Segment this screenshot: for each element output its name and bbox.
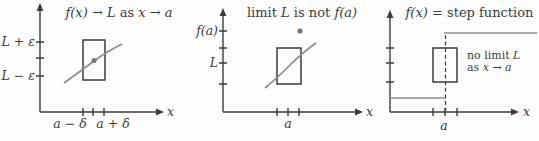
limits-figure: f(x) → L as x → a L + ε L − ε a − δ a + … xyxy=(0,0,539,141)
p1-xtick-label-a-plus-delta: a + δ xyxy=(81,117,145,131)
p1-ytick-label-L-minus-eps: L − ε xyxy=(0,69,35,83)
p3-title-seg1: f(x) xyxy=(406,5,428,20)
p1-x-axis-arrow-icon xyxy=(156,109,164,116)
p3-title-seg2: = step function xyxy=(428,5,534,20)
p3-note2-seg1: as xyxy=(467,61,483,74)
p2-xtick-label-a: a xyxy=(272,117,304,131)
p2-y-axis-arrow-icon xyxy=(220,8,227,16)
p1-title-seg1: f(x) → L xyxy=(65,5,115,20)
p2-title: limit L is not f(a) xyxy=(232,6,372,20)
p3-x-axis-label: x xyxy=(523,105,530,119)
p2-ytick-label-fa: f(a) xyxy=(180,24,218,38)
p3-no-limit-note-line2: as x → a xyxy=(467,62,512,74)
p2-x-axis-label: x xyxy=(366,105,373,119)
p2-fa-value-dot xyxy=(297,28,302,33)
p3-xtick-label-a: a xyxy=(428,119,460,133)
p1-title-seg2: as xyxy=(116,5,139,20)
p1-title: f(x) → L as x → a xyxy=(40,6,198,20)
p2-function-curve xyxy=(265,43,316,88)
panel-step-function xyxy=(386,10,537,116)
p2-title-seg3: is not xyxy=(290,5,335,20)
p2-title-seg1: limit xyxy=(247,5,281,20)
p2-ytick-label-L: L xyxy=(180,56,218,70)
p1-title-seg3: x → a xyxy=(138,5,172,20)
p2-title-seg4: f(a) xyxy=(334,5,357,20)
p1-function-curve xyxy=(64,44,122,83)
p2-title-seg2: L xyxy=(281,5,290,20)
p1-limit-point-dot xyxy=(91,58,96,63)
p3-x-axis-arrow-icon xyxy=(511,109,519,116)
p3-note2-seg2: x → a xyxy=(483,61,512,74)
p2-x-axis-arrow-icon xyxy=(355,109,363,116)
p3-note1-seg2: L xyxy=(513,49,520,62)
p3-y-axis-arrow-icon xyxy=(387,10,394,18)
p1-ytick-label-L-plus-eps: L + ε xyxy=(0,35,35,49)
panel-limit-not-fa xyxy=(219,8,363,116)
p1-x-axis-label: x xyxy=(167,105,174,119)
p3-title: f(x) = step function xyxy=(400,6,539,20)
